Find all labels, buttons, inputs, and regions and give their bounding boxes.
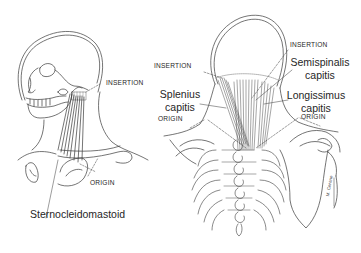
longissimus-line1: Longissimus: [285, 90, 347, 101]
longissimus-line2: capitis: [285, 103, 347, 114]
longissimus-capitis-label: Longissimus capitis: [285, 90, 347, 113]
origin-label-left-panel: ORIGIN: [90, 180, 115, 187]
semispinalis-line2: capitis: [289, 70, 351, 81]
sternocleidomastoid-label: Sternocleidomastoid: [30, 209, 125, 220]
semispinalis-capitis-label: Semispinalis capitis: [289, 57, 351, 80]
origin-label-right-panel-right: ORIGIN: [301, 114, 326, 121]
insertion-label-right-panel-left: INSERTION: [154, 63, 192, 70]
splenius-line2: capitis: [158, 102, 202, 113]
semispinalis-line1: Semispinalis: [289, 57, 351, 68]
splenius-line1: Splenius: [158, 89, 202, 100]
insertion-label-right-panel-right: INSERTION: [290, 42, 328, 49]
clipped-caption-strip: [40, 249, 340, 253]
insertion-label-left-panel: INSERTION: [106, 80, 144, 87]
splenius-capitis-label: Splenius capitis: [158, 89, 202, 112]
origin-label-right-panel-left: ORIGIN: [158, 116, 183, 123]
lateral-skull-drawing: [18, 31, 148, 218]
